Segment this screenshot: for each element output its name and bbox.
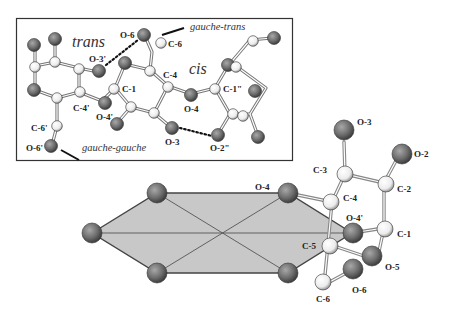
label-trans: trans (72, 33, 105, 50)
atom-label-o5: O-5 (385, 262, 400, 272)
atom-label-c6: C-6 (168, 39, 182, 49)
carbon-atom (248, 36, 259, 47)
molecular-diagram: trans cis gauche-trans gauche-gauche O-6… (0, 0, 450, 317)
oxygen-atom-o3 (334, 120, 354, 140)
atom-label-c1pp: C-1" (223, 84, 242, 94)
oxygen-atom-o6p (45, 140, 58, 153)
carbon-atom (228, 109, 239, 120)
oxygen-atom-o2pp (212, 129, 225, 142)
carbon-atom-c2 (378, 176, 394, 192)
oxygen-atom (252, 131, 265, 144)
carbon-atom (231, 62, 242, 73)
carbon-atom (74, 64, 85, 75)
carbon-atom-c3 (337, 166, 353, 182)
carbon-atom (145, 66, 156, 77)
carbon-atom (238, 111, 249, 122)
atom-label-o3: O-3 (165, 137, 180, 147)
atom-label-c2: C-2 (397, 184, 411, 194)
oxygen-atom-o4p (99, 97, 112, 110)
oxygen-atom (28, 39, 41, 52)
atom-label-o3: O-3 (357, 117, 372, 127)
atom-label-c1: C-1 (397, 229, 411, 239)
oxygen-atom-o6 (138, 29, 151, 42)
oxygen-atom (49, 33, 62, 46)
atom-label-c4: C-4 (343, 193, 357, 203)
atom-label-c4: C-4 (163, 70, 177, 80)
label-cis: cis (189, 60, 207, 77)
carbon-atom-c4 (323, 194, 339, 210)
oxygen-atom-hex-left (82, 223, 102, 243)
oxygen-atom-hex-bl (147, 263, 167, 283)
atom-label-c5: C-5 (302, 241, 316, 251)
oxygen-atom-o6 (343, 259, 363, 279)
oxygen-atom (268, 32, 281, 45)
oxygen-atom (28, 84, 41, 97)
oxygen-atom (249, 85, 262, 98)
atom-label-c6: C-6 (316, 294, 330, 304)
atom-label-c3: C-3 (313, 165, 327, 175)
oxygen-atom-o2 (392, 144, 412, 164)
oxygen-atom-o4p (343, 223, 363, 243)
carbon-atom (126, 102, 137, 113)
carbon-atom-c6 (315, 274, 331, 290)
atom-label-o3p: O-3' (89, 54, 106, 64)
atom-label-o4: O-4 (255, 182, 270, 192)
label-gauche-trans: gauche-trans (190, 21, 245, 32)
oxygen-atom-o4 (278, 183, 298, 203)
atom-label-o6: O-6 (352, 285, 367, 295)
oxygen-atom-hex-br (278, 263, 298, 283)
carbon-atom-c6 (156, 38, 167, 49)
carbon-atom-c1 (109, 84, 120, 95)
carbon-atom-c1pp (210, 84, 221, 95)
carbon-atom-c1 (377, 221, 393, 237)
atom-label-o2: O-2 (414, 149, 429, 159)
oxygen-atom-o5 (362, 246, 382, 266)
atom-label-o4p: O-4' (346, 213, 363, 223)
hexagon-ring (92, 193, 352, 273)
label-gauche-gauche: gauche-gauche (82, 142, 146, 153)
oxygen-atom-hex-tl (147, 183, 167, 203)
oxygen-atom (119, 57, 132, 70)
carbon-atom (52, 93, 63, 104)
carbon-atom-c6p (52, 121, 63, 132)
atom-label-c6p: C-6' (31, 123, 48, 133)
carbon-atom-c5 (322, 238, 338, 254)
carbon-atom-c4 (163, 82, 174, 93)
inset-panel: trans cis gauche-trans gauche-gauche O-6… (17, 19, 293, 161)
atom-label-o6p: O-6' (26, 143, 43, 153)
oxygen-atom-o4 (185, 89, 198, 102)
oxygen-atom-o3p (93, 65, 106, 78)
atom-label-o6: O-6 (120, 30, 135, 40)
atom-label-c1: C-1 (122, 84, 136, 94)
oxygen-atom-o3 (166, 122, 179, 135)
atom-label-o2pp: O-2" (210, 143, 230, 153)
carbon-atom (149, 108, 160, 119)
carbon-atom-c4p (75, 87, 86, 98)
atom-label-o4: O-4 (184, 104, 199, 114)
carbon-atom (30, 62, 41, 73)
atom-label-o4p: O-4' (96, 112, 113, 122)
carbon-atom (50, 57, 61, 68)
atom-label-c4p: C-4' (73, 103, 90, 113)
